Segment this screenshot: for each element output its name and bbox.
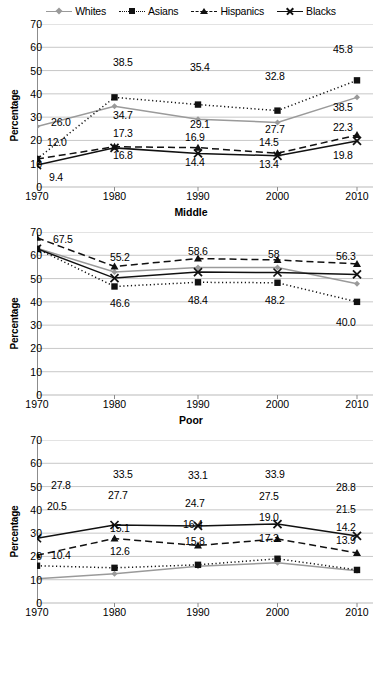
data-label: 17.3 <box>259 533 279 543</box>
data-label: 13.4 <box>259 159 279 169</box>
data-label: 15.1 <box>110 523 130 533</box>
x-tick-2000: 2000 <box>248 606 308 618</box>
y-tick-10: 10 <box>2 367 42 377</box>
asians-series-icon <box>119 6 145 17</box>
data-label: 48.4 <box>188 295 208 305</box>
data-label: 28.8 <box>336 482 356 492</box>
blacks-series-icon <box>277 6 303 17</box>
data-label: 20.5 <box>47 501 67 511</box>
data-label: 48.2 <box>265 295 285 305</box>
legend-item-hispanics: Hispanics <box>191 5 264 17</box>
y-tick-20: 20 <box>2 343 42 353</box>
data-label: 12.0 <box>47 137 67 147</box>
y-tick-60: 60 <box>2 42 42 52</box>
y-tick-40: 40 <box>2 89 42 99</box>
data-label: 22.3 <box>333 122 353 132</box>
panel-title-middle: Middle <box>0 206 382 218</box>
y-tick-40: 40 <box>2 505 42 515</box>
plot-area-middle: 26.034.729.127.738.538.535.432.845.812.0… <box>37 24 373 187</box>
plot-svg-middle <box>37 24 373 187</box>
y-tick-70: 70 <box>2 227 42 237</box>
y-tick-10: 10 <box>2 159 42 169</box>
x-tick-2000: 2000 <box>248 190 308 202</box>
plot-area-third: 27.833.533.133.928.820.527.724.727.521.5… <box>37 440 373 603</box>
plot-svg-third <box>37 440 373 603</box>
x-tick-1990: 1990 <box>168 606 228 618</box>
data-label: 19.8 <box>333 150 353 160</box>
data-label: 46.6 <box>110 298 130 308</box>
y-tick-50: 50 <box>2 274 42 284</box>
data-label: 40.0 <box>336 317 356 327</box>
legend-label-whites: Whites <box>75 5 106 17</box>
data-label: 13.9 <box>336 535 356 545</box>
legend-label-hispanics: Hispanics <box>220 5 264 17</box>
data-label: 15.8 <box>185 536 205 546</box>
x-tick-2010: 2010 <box>327 190 382 202</box>
chart-sheet: Whites Asians Hispanics Blacks Percentag… <box>0 0 382 674</box>
plot-area-poor: 67.555.258.65856.346.648.448.240.0 <box>37 232 373 395</box>
hispanics-series-icon <box>191 6 217 17</box>
data-label: 26.0 <box>51 117 71 127</box>
data-label: 19.0 <box>259 512 279 522</box>
data-label: 34.7 <box>113 110 133 120</box>
data-label: 58.6 <box>188 246 208 256</box>
data-label: 10.4 <box>51 550 71 560</box>
y-tick-30: 30 <box>2 112 42 122</box>
x-tick-1980: 1980 <box>85 398 145 410</box>
data-label: 38.5 <box>113 57 133 67</box>
x-tick-1970: 1970 <box>7 190 67 202</box>
y-tick-30: 30 <box>2 320 42 330</box>
data-label: 33.1 <box>188 470 208 480</box>
y-tick-30: 30 <box>2 528 42 538</box>
y-tick-70: 70 <box>2 19 42 29</box>
data-label: 14.5 <box>259 137 279 147</box>
chart-panel-third: Percentage 27.833.533.133.928.820.527.72… <box>0 434 382 652</box>
legend-label-asians: Asians <box>148 5 178 17</box>
data-label: 33.9 <box>265 469 285 479</box>
x-tick-1970: 1970 <box>7 606 67 618</box>
x-tick-2010: 2010 <box>327 398 382 410</box>
data-label: 58 <box>268 249 279 259</box>
data-label: 12.6 <box>110 546 130 556</box>
data-label: 56.3 <box>336 251 356 261</box>
chart-panel-middle: Percentage 26.034.729.127.738.538.535.43… <box>0 18 382 236</box>
data-label: 27.7 <box>265 124 285 134</box>
data-label: 14.4 <box>185 157 205 167</box>
data-label: 27.8 <box>51 480 71 490</box>
data-label: 24.7 <box>185 498 205 508</box>
legend-item-whites: Whites <box>46 5 106 17</box>
data-label: 38.5 <box>333 102 353 112</box>
y-tick-40: 40 <box>2 297 42 307</box>
y-tick-20: 20 <box>2 135 42 145</box>
data-label: 14.2 <box>336 522 356 532</box>
data-label: 27.7 <box>108 490 128 500</box>
data-label: 33.5 <box>113 469 133 479</box>
data-label: 29.1 <box>190 119 210 129</box>
data-label: 17.3 <box>113 128 133 138</box>
chart-panel-poor: Percentage 67.555.258.65856.346.648.448.… <box>0 226 382 444</box>
x-tick-2010: 2010 <box>327 606 382 618</box>
x-tick-1970: 1970 <box>7 398 67 410</box>
y-tick-70: 70 <box>2 435 42 445</box>
legend-item-blacks: Blacks <box>277 5 336 17</box>
y-tick-60: 60 <box>2 458 42 468</box>
x-tick-1980: 1980 <box>85 606 145 618</box>
data-label: 16.9 <box>185 132 205 142</box>
data-label: 55.2 <box>110 252 130 262</box>
data-label: 16.4 <box>183 519 203 529</box>
data-label: 35.4 <box>190 62 210 72</box>
x-tick-1980: 1980 <box>85 190 145 202</box>
y-tick-10: 10 <box>2 575 42 585</box>
x-tick-1990: 1990 <box>168 398 228 410</box>
y-tick-50: 50 <box>2 482 42 492</box>
data-label: 27.5 <box>259 491 279 501</box>
legend-item-asians: Asians <box>119 5 178 17</box>
data-label: 45.8 <box>333 44 353 54</box>
data-label: 16.8 <box>113 150 133 160</box>
panel-title-poor: Poor <box>0 414 382 426</box>
y-tick-60: 60 <box>2 250 42 260</box>
legend-label-blacks: Blacks <box>306 5 336 17</box>
y-tick-20: 20 <box>2 551 42 561</box>
x-tick-1990: 1990 <box>168 190 228 202</box>
y-tick-50: 50 <box>2 66 42 76</box>
